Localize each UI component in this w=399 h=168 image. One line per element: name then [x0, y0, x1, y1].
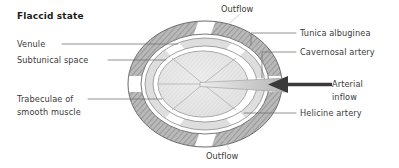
label-subtunical-space: Subtunical space [17, 55, 88, 66]
label-venule: Venule [17, 39, 45, 50]
label-outflow-bottom: Outflow [206, 151, 238, 162]
label-arterial-inflow: Arterial inflow [332, 78, 363, 103]
label-trabeculae-of-smooth-muscle: Trabeculae of smooth muscle [17, 93, 81, 118]
label-helicine-artery: Helicine artery [300, 108, 362, 119]
label-tunica-albuginea: Tunica albuginea [300, 28, 371, 39]
label-cavernosal-artery: Cavernosal artery [300, 47, 375, 58]
figure-title: Flaccid state [17, 11, 84, 22]
label-outflow-top: Outflow [221, 4, 253, 15]
